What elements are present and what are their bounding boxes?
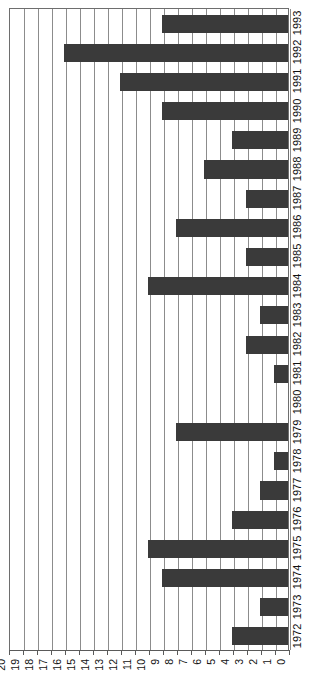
x-axis-tick — [233, 650, 234, 655]
y-axis-tick-label: 1981 — [291, 358, 307, 387]
y-axis-tick-label: 1976 — [291, 504, 307, 533]
x-axis-tick — [79, 650, 80, 655]
y-axis-tick-label: 1991 — [291, 66, 307, 95]
y-axis-tick-label: 1984 — [291, 271, 307, 300]
bar[interactable] — [274, 452, 288, 470]
y-axis-tick-label: 1974 — [291, 562, 307, 591]
bar-row — [10, 190, 288, 208]
bar-row — [10, 160, 288, 178]
bar-row — [10, 452, 288, 470]
x-axis-tick — [93, 650, 94, 655]
y-axis-tick-label: 1990 — [291, 96, 307, 125]
bar-row — [10, 44, 288, 62]
bar-row — [10, 511, 288, 529]
plot-area — [9, 8, 289, 650]
bar-chart: 20191817161514131211109876543210 1972197… — [0, 0, 318, 689]
x-axis-tick — [191, 650, 192, 655]
bar[interactable] — [260, 306, 288, 324]
bar[interactable] — [274, 365, 288, 383]
bar-row — [10, 306, 288, 324]
x-axis-tick — [205, 650, 206, 655]
y-axis-tick-label: 1980 — [291, 387, 307, 416]
y-axis-tick-label: 1972 — [291, 621, 307, 650]
bar-row — [10, 219, 288, 237]
bar[interactable] — [162, 15, 288, 33]
bar[interactable] — [148, 277, 288, 295]
y-axis-tick-label: 1979 — [291, 417, 307, 446]
bar[interactable] — [204, 160, 288, 178]
bar[interactable] — [232, 131, 288, 149]
bar-row — [10, 394, 288, 412]
bar[interactable] — [260, 481, 288, 499]
bar-row — [10, 540, 288, 558]
y-axis-tick-label: 1982 — [291, 329, 307, 358]
x-axis-tick — [177, 650, 178, 655]
bar-row — [10, 423, 288, 441]
y-axis-year-labels: 1972197319741975197619771978197919801981… — [291, 0, 318, 689]
x-axis-tick — [261, 650, 262, 655]
bar[interactable] — [246, 336, 288, 354]
bar-row — [10, 569, 288, 587]
bar-row — [10, 598, 288, 616]
y-axis-tick-label: 1987 — [291, 183, 307, 212]
bar-row — [10, 102, 288, 120]
bar[interactable] — [162, 102, 288, 120]
x-axis-tick — [37, 650, 38, 655]
y-axis-tick-label: 1988 — [291, 154, 307, 183]
y-axis-tick-label: 1993 — [291, 8, 307, 37]
x-axis-tick — [107, 650, 108, 655]
bar-row — [10, 15, 288, 33]
bar[interactable] — [232, 511, 288, 529]
y-axis-tick-label: 1986 — [291, 212, 307, 241]
x-axis-tick — [289, 650, 290, 655]
bar[interactable] — [148, 540, 288, 558]
y-axis-tick-label: 1977 — [291, 475, 307, 504]
y-axis-tick-label: 1985 — [291, 241, 307, 270]
bar[interactable] — [176, 423, 288, 441]
bar[interactable] — [64, 44, 288, 62]
y-axis-tick-label: 1983 — [291, 300, 307, 329]
x-axis-tick — [9, 650, 10, 655]
bar[interactable] — [120, 73, 288, 91]
bar[interactable] — [162, 569, 288, 587]
y-axis-tick-label: 1975 — [291, 533, 307, 562]
x-axis-tick — [51, 650, 52, 655]
x-axis-tick — [163, 650, 164, 655]
bar-row — [10, 481, 288, 499]
bar[interactable] — [176, 219, 288, 237]
bar-row — [10, 627, 288, 645]
bar[interactable] — [246, 190, 288, 208]
x-axis-tick — [23, 650, 24, 655]
x-axis-tick — [219, 650, 220, 655]
y-axis-tick-label: 1973 — [291, 592, 307, 621]
y-axis-tick-label: 1978 — [291, 446, 307, 475]
y-axis-tick-label: 1992 — [291, 37, 307, 66]
x-axis-tick — [149, 650, 150, 655]
bar-row — [10, 248, 288, 266]
bar-row — [10, 131, 288, 149]
bar-row — [10, 277, 288, 295]
x-axis-tick — [275, 650, 276, 655]
x-axis-tick — [121, 650, 122, 655]
x-axis-tick — [135, 650, 136, 655]
bar-row — [10, 73, 288, 91]
bars-layer — [10, 9, 288, 650]
bar-row — [10, 336, 288, 354]
x-axis-tick — [65, 650, 66, 655]
bar[interactable] — [246, 248, 288, 266]
x-axis-tick — [247, 650, 248, 655]
bar[interactable] — [232, 627, 288, 645]
bar-row — [10, 365, 288, 383]
bar[interactable] — [260, 598, 288, 616]
y-axis-tick-label: 1989 — [291, 125, 307, 154]
